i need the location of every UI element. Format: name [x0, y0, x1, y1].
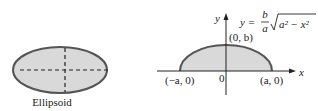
point-label-top: (0, b)	[229, 31, 253, 44]
y-axis-arrow-icon	[224, 13, 229, 20]
point-label-right: (a, 0)	[260, 74, 284, 87]
diagram-root: Ellipsoid x y y = b a a² − x² (0, b) (−a…	[0, 0, 318, 111]
point-label-left: (−a, 0)	[165, 74, 195, 87]
equation-lhs: y =	[239, 16, 255, 28]
half-ellipse-graph: x y y = b a a² − x² (0, b) (−a, 0) (a, 0…	[157, 8, 316, 95]
x-axis-arrow-icon	[289, 69, 296, 74]
origin-label: 0	[219, 72, 225, 84]
x-axis-label: x	[298, 66, 304, 78]
ellipsoid-figure: Ellipsoid	[13, 47, 108, 108]
ellipsoid-caption: Ellipsoid	[32, 96, 72, 108]
y-axis-label: y	[214, 12, 220, 24]
equation-radicand: a² − x²	[279, 18, 310, 30]
equation-numerator: b	[262, 8, 268, 20]
equation-denominator: a	[262, 22, 268, 34]
diagram-canvas: Ellipsoid x y y = b a a² − x² (0, b) (−a…	[0, 0, 318, 111]
